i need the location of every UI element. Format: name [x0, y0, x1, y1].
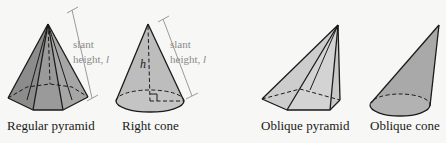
height-label: h — [140, 57, 146, 71]
caption-oblique-pyramid: Oblique pyramid — [261, 118, 350, 133]
labels-layer: slant height, l slant height, l h Regula… — [0, 0, 446, 143]
slant-label-line2: height, l — [73, 53, 109, 65]
caption-oblique-cone: Oblique cone — [370, 118, 440, 133]
caption-regular-pyramid: Regular pyramid — [7, 118, 95, 133]
slant-label-line1: slant — [73, 38, 94, 50]
slant-label-line1: slant — [170, 38, 191, 50]
caption-right-cone: Right cone — [122, 118, 179, 133]
slant-label-line2: height, l — [170, 53, 206, 65]
